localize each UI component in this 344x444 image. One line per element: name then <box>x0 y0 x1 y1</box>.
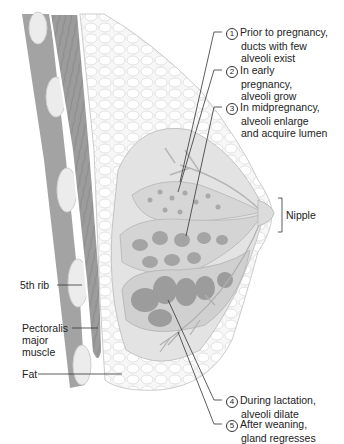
label-pectoralis-major-muscle: Pectoralis major muscle <box>22 322 68 358</box>
stage-number-badge: 3 <box>226 103 238 115</box>
stage-number-badge: 4 <box>226 396 238 408</box>
stage-4-label: 4During lactation, alveoli dilate <box>226 394 316 420</box>
stage-number-badge: 5 <box>226 420 238 432</box>
rib-1 <box>29 12 47 44</box>
stage-number-badge: 1 <box>226 28 238 40</box>
stage-number-badge: 2 <box>226 66 238 78</box>
stage-2-label: 2In early pregnancy, alveoli grow <box>226 64 296 102</box>
label-fat: Fat <box>22 368 37 380</box>
label-nipple: Nipple <box>286 209 316 221</box>
stage-1-label: 1Prior to pregnancy, ducts with few alve… <box>226 26 328 64</box>
stage-5-label: 5After weaning, gland regresses <box>226 418 316 444</box>
stage-3-label: 3In midpregnancy, alveoli enlarge and ac… <box>226 101 327 139</box>
label-5th-rib: 5th rib <box>20 279 49 291</box>
rib-6 <box>73 345 91 385</box>
